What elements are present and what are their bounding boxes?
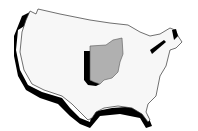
us-map <box>0 0 198 131</box>
